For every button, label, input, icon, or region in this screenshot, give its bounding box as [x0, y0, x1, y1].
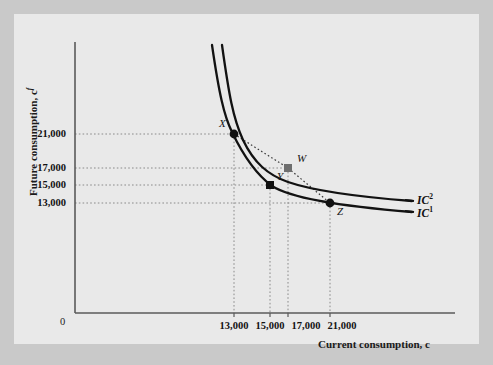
curve-ic2 — [222, 45, 412, 201]
figure-root: Future consumption, cf Current consumpti… — [0, 0, 493, 365]
axis-lines — [75, 42, 455, 313]
plot-canvas — [0, 0, 493, 365]
data-point-label-y: Y — [277, 170, 283, 182]
curve-label-ic1-superscript: 1 — [429, 205, 433, 214]
y-axis-title: Future consumption, cf — [25, 72, 39, 212]
data-point-z-marker[interactable] — [326, 199, 335, 208]
curve-label-ic2-superscript: 2 — [429, 192, 433, 201]
curve-ic1 — [212, 45, 412, 212]
curve-label-ic1: IC1 — [417, 205, 433, 219]
y-tick-label-15000: 15,000 — [20, 179, 66, 190]
y-tick-label-13000: 13,000 — [20, 197, 66, 208]
data-point-label-w: W — [297, 152, 306, 164]
curve-label-ic2: IC2 — [417, 192, 433, 206]
leader-ic2 — [405, 200, 414, 201]
data-point-label-x: X — [219, 117, 226, 129]
y-tick-label-17000: 17,000 — [20, 162, 66, 173]
budget-line — [234, 134, 330, 203]
leader-ic1 — [405, 211, 414, 212]
y-axis-title-superscript: f — [25, 88, 34, 91]
x-axis-title: Current consumption, c — [318, 338, 430, 350]
origin-label: 0 — [60, 316, 65, 327]
data-point-x-marker[interactable] — [230, 130, 239, 139]
y-tick-label-21000: 21,000 — [20, 128, 66, 139]
data-point-label-z: Z — [337, 205, 343, 217]
data-point-y-marker[interactable] — [266, 181, 274, 189]
x-tick-label-21000: 21,000 — [319, 320, 365, 331]
data-point-w-marker[interactable] — [284, 164, 292, 172]
curve-label-ic1-text: IC — [417, 207, 429, 219]
